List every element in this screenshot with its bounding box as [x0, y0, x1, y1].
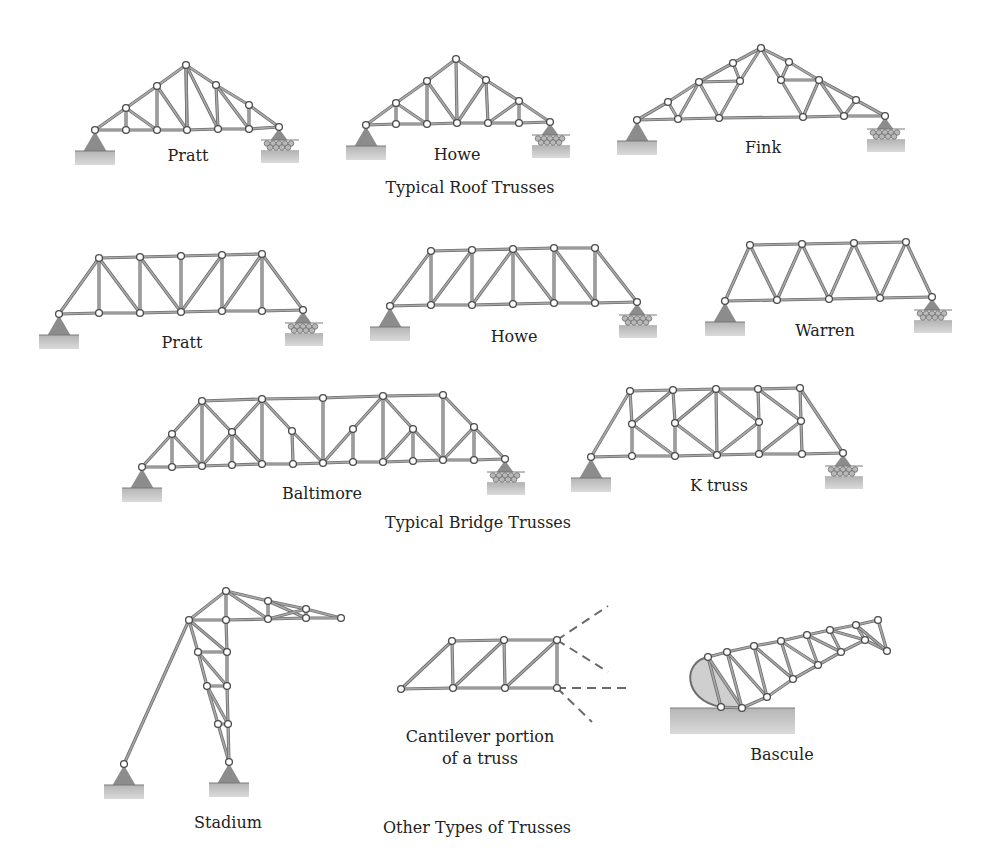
truss-member-fill	[262, 254, 303, 310]
bascule-members	[708, 620, 887, 708]
pin-joint-icon	[265, 598, 272, 605]
pin-joint-icon	[903, 239, 910, 246]
pin-joint-icon	[338, 615, 345, 622]
pin-joint-icon	[303, 615, 310, 622]
pin-joint-icon	[137, 310, 144, 317]
bridge-howe-members	[390, 248, 637, 306]
truss-member-fill	[854, 243, 880, 298]
truss-member-fill	[99, 257, 140, 258]
pin-joint-icon	[853, 622, 860, 629]
truss-member-fill	[519, 122, 550, 123]
pin-joint-icon	[800, 114, 807, 121]
pin-joint-icon	[137, 254, 144, 261]
truss-member-fill	[519, 101, 550, 122]
pin-joint-icon	[223, 617, 230, 624]
truss-member-fill	[383, 396, 413, 429]
truss-member-fill	[443, 427, 474, 460]
truss-member-fill	[396, 103, 427, 124]
truss-member-fill	[699, 82, 719, 118]
pin-joint-icon	[672, 453, 679, 460]
pin-joint-icon	[154, 83, 161, 90]
pin-joint-icon	[799, 241, 806, 248]
pin-joint-icon	[786, 59, 793, 66]
pin-joint-icon	[875, 617, 882, 624]
pin-joint-icon	[223, 588, 230, 595]
truss-member-fill	[292, 431, 323, 463]
pin-joint-icon	[665, 99, 672, 106]
pin-joint-icon	[219, 252, 226, 259]
pin-joint-icon	[722, 298, 729, 305]
pin-joint-icon	[739, 705, 746, 712]
pin-joint-icon	[483, 77, 490, 84]
pin-joint-icon	[469, 247, 476, 254]
pin-support-icon	[705, 303, 745, 336]
truss-member-fill	[632, 390, 673, 424]
pin-joint-icon	[634, 299, 641, 306]
pin-joint-icon	[56, 311, 63, 318]
bridge-baltimore-label: Baltimore	[282, 484, 362, 503]
truss-member-fill	[505, 640, 557, 688]
truss-member-fill	[202, 432, 232, 466]
truss-member-fill	[140, 257, 181, 312]
pin-joint-icon	[450, 685, 457, 692]
truss-member-fill	[856, 100, 885, 116]
roller-support-icon	[619, 304, 657, 338]
truss-member-fill	[227, 686, 228, 724]
pin-joint-icon	[629, 421, 636, 428]
bascule-ground	[670, 708, 795, 734]
truss-member-fill	[401, 641, 452, 689]
truss-diagram: PrattHoweFinkPrattHoweWarrenBaltimoreK t…	[0, 0, 1005, 861]
truss-member-fill	[323, 462, 353, 463]
pin-joint-icon	[778, 77, 785, 84]
truss-member-fill	[699, 63, 733, 82]
pin-joint-icon	[851, 240, 858, 247]
pin-joint-icon	[224, 683, 231, 690]
pin-joint-icon	[213, 82, 220, 89]
pin-joint-icon	[350, 426, 357, 433]
truss-member-fill	[383, 461, 413, 462]
truss-member-fill	[186, 65, 187, 130]
truss-member-fill	[124, 620, 189, 764]
truss-member-fill	[396, 81, 427, 103]
pin-joint-icon	[96, 255, 103, 262]
cantilever-label-line: Cantilever portion	[406, 727, 554, 746]
roof-pratt-members	[95, 65, 279, 130]
pin-support-icon	[346, 127, 386, 160]
truss-member-fill	[453, 640, 504, 688]
pin-joint-icon	[827, 627, 834, 634]
truss-member-fill	[216, 85, 249, 129]
pin-joint-icon	[398, 686, 405, 693]
pin-joint-icon	[169, 464, 176, 471]
pin-joint-icon	[259, 461, 266, 468]
truss-member-fill	[802, 244, 829, 299]
pin-joint-icon	[219, 308, 226, 315]
truss-member-fill	[140, 256, 181, 257]
pin-joint-icon	[229, 462, 236, 469]
truss-member-fill	[758, 388, 800, 389]
roof-fink-members	[637, 48, 885, 120]
pin-support-icon	[617, 122, 657, 155]
truss-member-fill	[716, 389, 717, 455]
pin-joint-icon	[815, 662, 822, 669]
truss-member-fill	[777, 299, 829, 300]
pin-joint-icon	[199, 398, 206, 405]
truss-member-fill	[142, 434, 172, 467]
truss-member-fill	[754, 641, 781, 646]
truss-member-fill	[802, 453, 843, 454]
pin-joint-icon	[224, 649, 231, 656]
pin-support-icon	[209, 764, 249, 797]
truss-member-fill	[181, 255, 222, 312]
truss-member-fill	[750, 244, 802, 245]
pin-joint-icon	[547, 119, 554, 126]
truss-member-fill	[413, 460, 443, 461]
truss-member-fill	[390, 251, 431, 306]
roller-support-icon	[825, 455, 863, 489]
truss-member-fill	[725, 245, 750, 301]
pin-joint-icon	[799, 451, 806, 458]
pin-joint-icon	[410, 458, 417, 465]
truss-member-fill	[401, 688, 453, 689]
pin-joint-icon	[764, 694, 771, 701]
cantilever-label-line: of a truss	[442, 749, 518, 768]
pin-joint-icon	[380, 393, 387, 400]
pin-joint-icon	[502, 685, 509, 692]
